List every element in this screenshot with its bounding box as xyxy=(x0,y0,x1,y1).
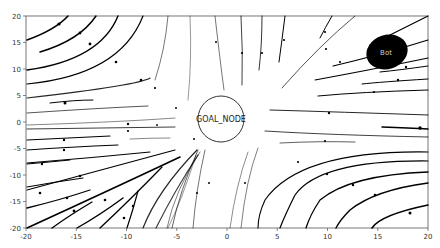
y-tick-label: 5 xyxy=(17,92,21,100)
y-tick-label: -20 xyxy=(10,225,21,233)
x-tick-label: 10 xyxy=(323,233,332,241)
y-tick-label: -5 xyxy=(14,145,21,153)
x-tick-label: 15 xyxy=(373,233,382,241)
x-tick-label: -5 xyxy=(173,233,180,241)
goal-node-label: GOAL_NODE xyxy=(196,115,246,124)
x-tick-label: 0 xyxy=(225,233,229,241)
x-tick-label: 20 xyxy=(424,233,433,241)
bot-label: Bot xyxy=(380,49,392,57)
x-tick-label: -10 xyxy=(121,233,132,241)
y-tick-label: 0 xyxy=(17,119,21,127)
y-axis: 20 15 10 5 0 -5 -10 -15 -20 xyxy=(10,13,26,233)
y-tick-label: -15 xyxy=(10,198,21,206)
streamplot-figure: GOAL_NODE Bot 20 15 10 5 0 -5 -10 -15 -2… xyxy=(0,0,440,248)
x-tick-label: 5 xyxy=(275,233,279,241)
plot-svg: GOAL_NODE Bot 20 15 10 5 0 -5 -10 -15 -2… xyxy=(0,0,440,248)
y-tick-label: -10 xyxy=(10,172,21,180)
y-tick-label: 10 xyxy=(12,66,21,74)
x-tick-label: -20 xyxy=(20,233,31,241)
x-tick-label: -15 xyxy=(71,233,82,241)
x-axis: -20 -15 -10 -5 0 5 10 15 20 xyxy=(20,228,432,241)
y-tick-label: 15 xyxy=(12,39,21,47)
y-tick-label: 20 xyxy=(12,13,21,21)
